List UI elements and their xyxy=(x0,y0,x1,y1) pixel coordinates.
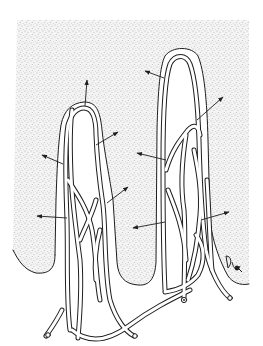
villi-illustration: intestinal villi with capillary network xyxy=(0,0,263,346)
illustration-canvas xyxy=(0,0,263,346)
stippled-tissue xyxy=(13,20,249,285)
